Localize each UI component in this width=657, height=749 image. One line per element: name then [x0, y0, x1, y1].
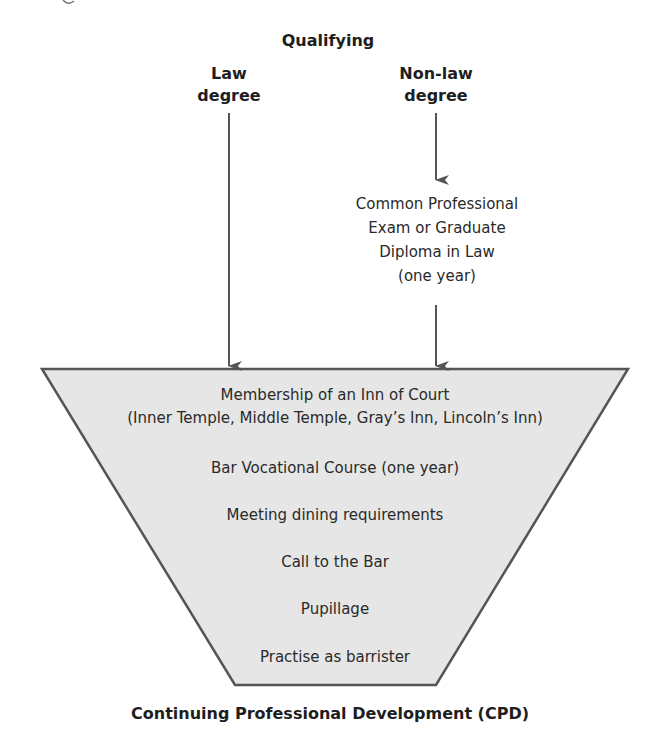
non-law-degree-label: Non-law degree: [399, 63, 472, 107]
conversion-course-line4: (one year): [356, 264, 518, 288]
non-law-degree-label-line2: degree: [399, 85, 472, 107]
conversion-course-line3: Diploma in Law: [356, 240, 518, 264]
law-degree-label: Law degree: [197, 63, 260, 107]
cropped-glyph-fragment: [63, 0, 74, 3]
law-degree-label-line2: degree: [197, 85, 260, 107]
funnel-step-practise-barrister: Practise as barrister: [260, 647, 410, 667]
funnel-step-pupillage: Pupillage: [301, 599, 369, 619]
conversion-course-line1: Common Professional: [356, 192, 518, 216]
funnel-step-dining-requirements: Meeting dining requirements: [227, 505, 444, 525]
non-law-degree-label-line1: Non-law: [399, 63, 472, 85]
flow-diagram-shapes: [0, 0, 657, 749]
funnel-step-inn-membership: Membership of an Inn of Court (Inner Tem…: [127, 385, 543, 428]
qualifying-heading: Qualifying: [282, 30, 374, 52]
funnel-step-call-to-bar: Call to the Bar: [281, 552, 389, 572]
cpd-footer-label: Continuing Professional Development (CPD…: [131, 703, 529, 725]
funnel-step-inn-membership-title: Membership of an Inn of Court: [127, 385, 543, 405]
funnel-step-inn-membership-detail: (Inner Temple, Middle Temple, Gray’s Inn…: [127, 408, 543, 428]
conversion-course-line2: Exam or Graduate: [356, 216, 518, 240]
conversion-course-box: Common Professional Exam or Graduate Dip…: [356, 192, 518, 288]
law-degree-label-line1: Law: [197, 63, 260, 85]
funnel-step-bar-vocational-course: Bar Vocational Course (one year): [211, 458, 459, 478]
